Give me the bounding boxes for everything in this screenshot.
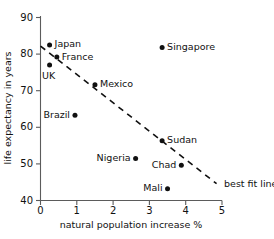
data-point-marker: [133, 156, 138, 161]
y-tick-label: 50: [20, 158, 33, 169]
chart-canvas: 40 50 60 70 80 90 0 1 2 3 4 5 natural po…: [0, 0, 274, 239]
x-axis-ticks: 0 1 2 3 4 5: [37, 201, 225, 217]
data-point-label: Chad: [152, 159, 177, 170]
data-point-label: Singapore: [167, 41, 215, 52]
data-point-marker: [160, 138, 165, 143]
data-point-label: France: [62, 51, 94, 62]
data-point-label: Japan: [54, 38, 82, 49]
data-point-marker: [92, 82, 97, 87]
y-tick-label: 60: [20, 121, 33, 132]
data-point: France: [54, 51, 93, 62]
data-point-marker: [165, 186, 170, 191]
data-point-label: Mali: [143, 182, 162, 193]
data-point: Brazil: [43, 109, 77, 120]
best-fit-line-label: best fit line: [224, 178, 274, 189]
data-point-marker: [47, 42, 52, 47]
data-point-label: UK: [42, 70, 56, 81]
y-tick-label: 90: [20, 12, 33, 23]
x-tick-label: 4: [183, 205, 189, 216]
x-tick-label: 0: [37, 205, 43, 216]
data-point: Mexico: [92, 78, 133, 89]
data-point: Chad: [152, 159, 184, 170]
data-point-marker: [72, 113, 77, 118]
data-point: Mali: [143, 182, 170, 193]
scatter-chart: 40 50 60 70 80 90 0 1 2 3 4 5 natural po…: [0, 0, 274, 239]
data-point: Singapore: [160, 41, 216, 52]
y-axis-title: life expectancy in years: [2, 51, 13, 164]
y-tick-label: 40: [20, 195, 33, 206]
x-tick-label: 1: [74, 205, 80, 216]
data-point-label: Brazil: [43, 109, 70, 120]
data-point-marker: [47, 63, 52, 68]
x-tick-label: 5: [219, 205, 225, 216]
data-point-label: Nigeria: [97, 152, 131, 163]
x-axis-title: natural population increase %: [60, 219, 203, 230]
data-point: Nigeria: [97, 152, 139, 163]
x-tick-label: 2: [110, 205, 116, 216]
y-tick-label: 70: [20, 85, 33, 96]
data-point-marker: [54, 55, 59, 60]
data-point: UK: [42, 63, 56, 81]
data-point-label: Mexico: [100, 78, 133, 89]
data-point: Japan: [47, 38, 81, 49]
data-point-marker: [160, 45, 165, 50]
data-point-label: Sudan: [167, 134, 197, 145]
data-point-marker: [179, 163, 184, 168]
y-tick-label: 80: [20, 48, 33, 59]
y-axis-ticks: 40 50 60 70 80 90: [20, 12, 40, 206]
x-tick-label: 3: [146, 205, 152, 216]
